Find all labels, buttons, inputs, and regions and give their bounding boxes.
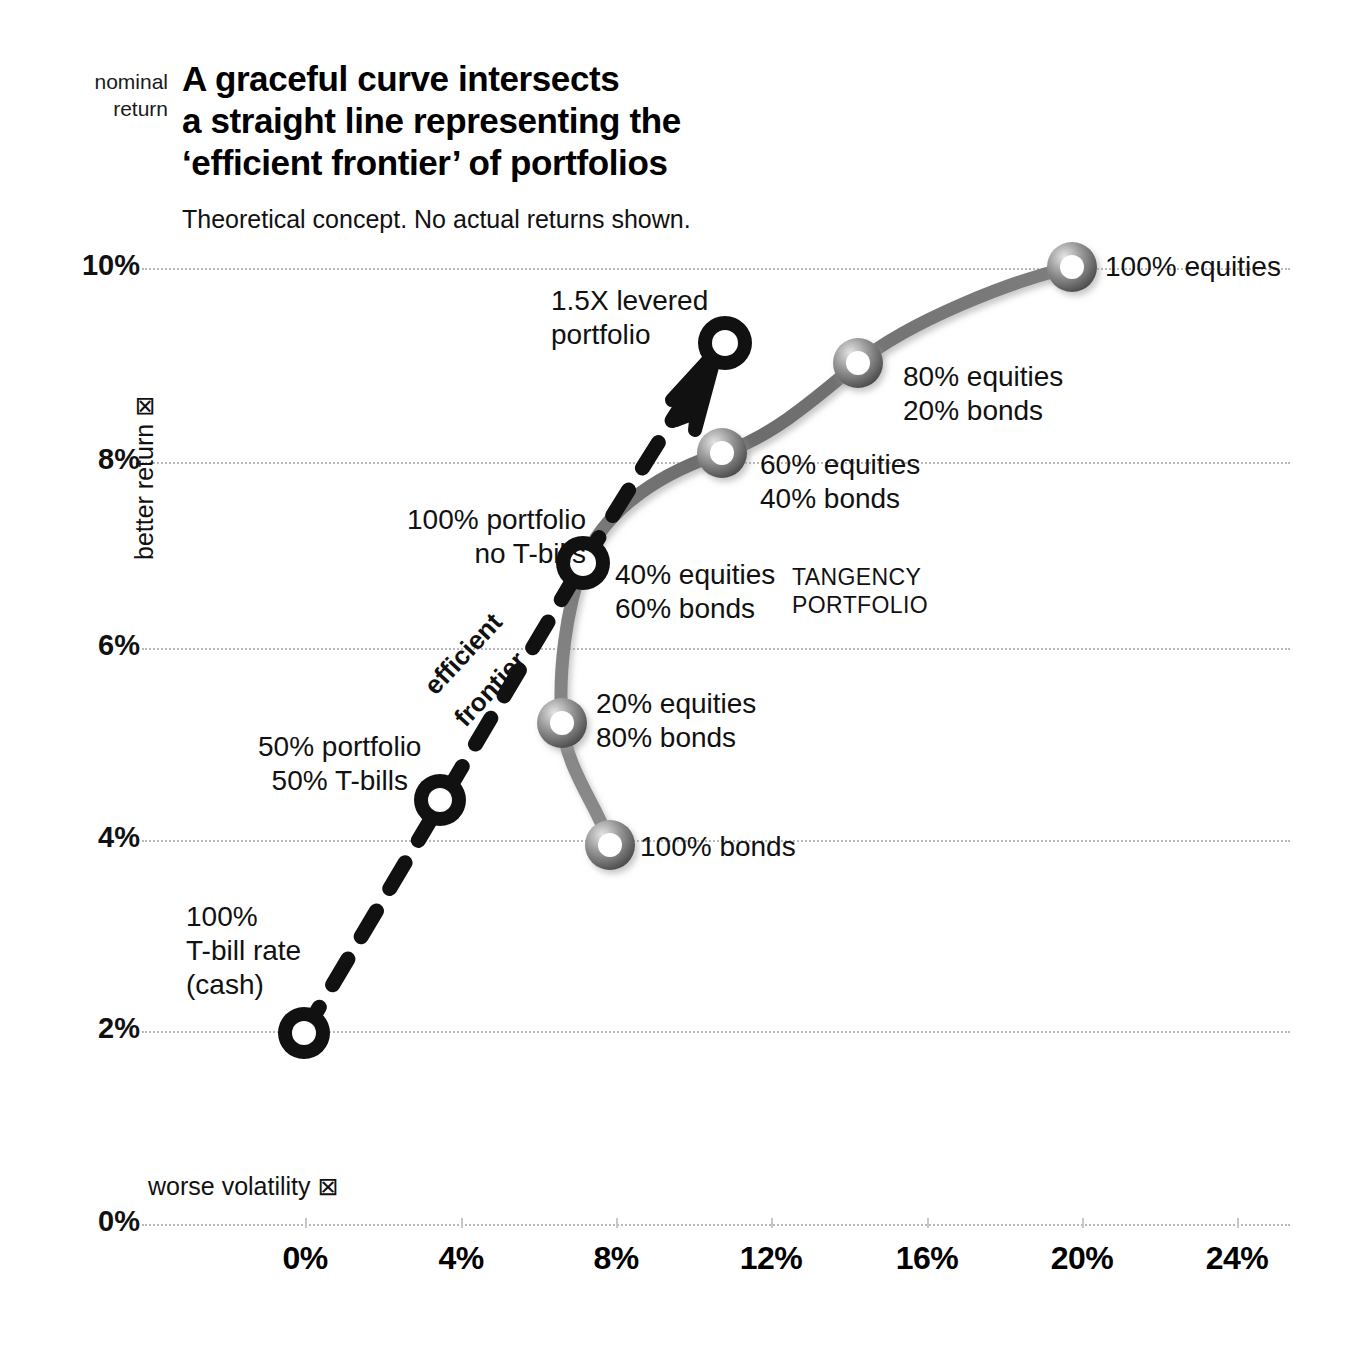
marker-100-equities[interactable] <box>1047 242 1097 292</box>
label-60-equities-40-bonds: 60% equities 40% bonds <box>760 448 920 516</box>
label-40-equities-60-bonds: 40% equities 60% bonds <box>615 558 775 626</box>
marker-50-portfolio-50-tbills[interactable] <box>414 774 466 826</box>
plot-graphics <box>0 0 1352 1346</box>
label-100-portfolio-no-tbills: 100% portfolio no T-bills <box>386 503 586 571</box>
label-tangency-portfolio: TANGENCY PORTFOLIO <box>792 563 928 619</box>
label-50-portfolio-50-tbills: 50% portfolio 50% T-bills <box>258 730 408 798</box>
label-tbill-cash: 100% T-bill rate (cash) <box>186 900 301 1002</box>
marker-80-equities-20-bonds[interactable] <box>833 338 883 388</box>
label-20-equities-80-bonds: 20% equities 80% bonds <box>596 687 756 755</box>
marker-tbill-cash[interactable] <box>278 1007 330 1059</box>
marker-100-bonds[interactable] <box>585 820 635 870</box>
label-levered-portfolio: 1.5X levered portfolio <box>551 284 708 352</box>
label-100-bonds: 100% bonds <box>640 830 796 864</box>
label-80-equities-20-bonds: 80% equities 20% bonds <box>903 360 1063 428</box>
marker-20-equities-80-bonds[interactable] <box>537 698 587 748</box>
label-100-equities: 100% equities <box>1105 250 1281 284</box>
frontier-curve <box>561 267 1072 845</box>
marker-60-equities-40-bonds[interactable] <box>697 428 747 478</box>
chart-canvas: nominal return A graceful curve intersec… <box>0 0 1352 1346</box>
